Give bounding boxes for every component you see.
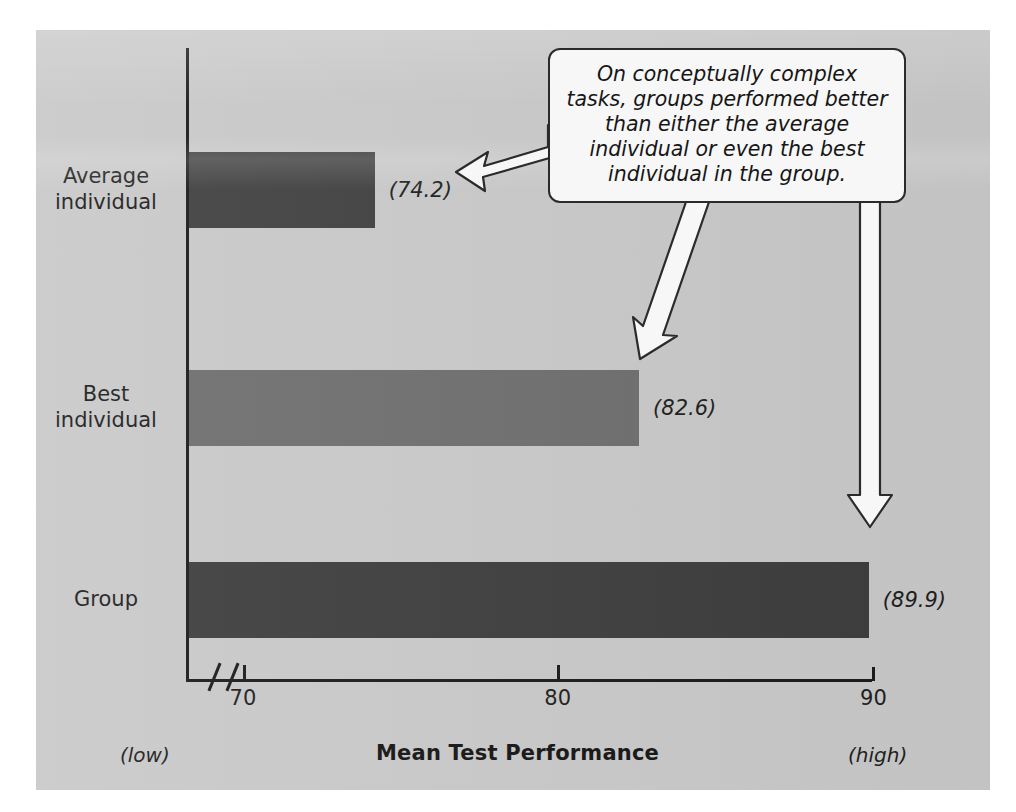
bar-value-group: (89.9) xyxy=(883,588,946,612)
x-tick-80 xyxy=(557,665,560,680)
category-label-group: Group xyxy=(36,586,176,612)
callout-arrow-to-group xyxy=(848,173,892,527)
bar-group xyxy=(189,562,869,638)
category-label-best-individual: Best individual xyxy=(36,381,176,433)
bar-value-average-individual: (74.2) xyxy=(389,178,452,202)
x-axis-low-hint: (low) xyxy=(120,743,170,767)
x-tick-label-70: 70 xyxy=(230,686,257,710)
x-tick-label-90: 90 xyxy=(860,686,887,710)
callout-arrow-to-average-individual xyxy=(456,125,560,191)
x-axis-line xyxy=(186,679,872,682)
figure-panel: 70 80 90 (74.2) (82.6) (89.9) Average in… xyxy=(36,30,990,790)
category-label-line-1: Best xyxy=(36,381,176,407)
category-label-average-individual: Average individual xyxy=(36,163,176,215)
callout-box: On conceptually complex tasks, groups pe… xyxy=(548,48,906,203)
category-label-line-1: Average xyxy=(36,163,176,189)
x-tick-label-80: 80 xyxy=(544,686,571,710)
x-axis-high-hint: (high) xyxy=(848,743,907,767)
category-label-line-2: individual xyxy=(36,407,176,433)
category-label-line-1: Group xyxy=(36,586,176,612)
bar-average-individual xyxy=(189,152,375,228)
bar-value-best-individual: (82.6) xyxy=(653,396,716,420)
bar-best-individual xyxy=(189,370,639,446)
category-label-line-2: individual xyxy=(36,189,176,215)
x-axis-end-cap xyxy=(872,667,875,681)
x-axis-title: Mean Test Performance xyxy=(376,741,659,765)
